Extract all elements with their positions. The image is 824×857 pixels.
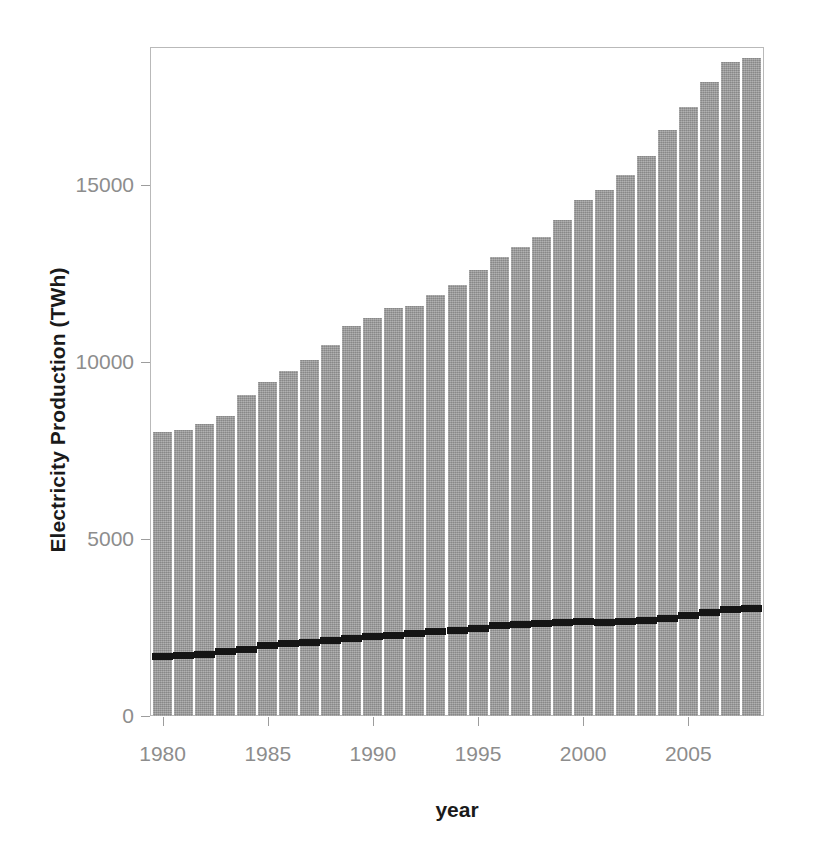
y-tick-mark [141, 362, 150, 363]
plot-frame [150, 47, 764, 716]
y-tick-label: 10000 [44, 350, 134, 374]
x-tick-label: 2000 [523, 742, 643, 766]
x-tick-label: 1995 [418, 742, 538, 766]
x-tick-label: 1980 [103, 742, 223, 766]
x-tick-mark [688, 717, 689, 726]
y-tick-mark [141, 539, 150, 540]
x-axis-title: year [150, 798, 764, 822]
chart-figure: Electricity Production (TWh) year 050001… [0, 0, 824, 857]
y-tick-label: 5000 [44, 527, 134, 551]
x-tick-label: 2005 [628, 742, 748, 766]
y-tick-mark [141, 185, 150, 186]
x-tick-label: 1990 [313, 742, 433, 766]
x-tick-mark [268, 717, 269, 726]
x-tick-mark [163, 717, 164, 726]
x-tick-mark [478, 717, 479, 726]
y-tick-mark [141, 716, 150, 717]
y-tick-label: 15000 [44, 173, 134, 197]
x-tick-mark [583, 717, 584, 726]
x-tick-mark [373, 717, 374, 726]
y-tick-label: 0 [44, 704, 134, 728]
x-tick-label: 1985 [208, 742, 328, 766]
